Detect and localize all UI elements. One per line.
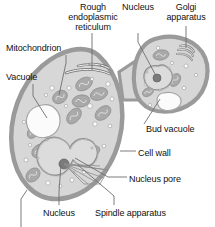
cytoplasmic-vesicle: [148, 103, 151, 106]
vacuole-outline: [26, 105, 60, 138]
cytoplasmic-vesicle: [170, 61, 173, 64]
cytoplasmic-vesicle: [184, 64, 188, 68]
label-nucleus-pore: Nucleus pore: [129, 174, 195, 184]
cytoplasmic-vesicle: [106, 82, 110, 86]
cytoplasmic-vesicle: [70, 178, 74, 182]
nucleus-pore: [37, 157, 39, 159]
cytoplasmic-vesicle: [46, 181, 50, 185]
cytoplasmic-vesicle: [108, 124, 112, 128]
bud-vacuole-shape: [157, 92, 181, 110]
leader-unlabeled-bottom: [21, 190, 27, 227]
bud-nucleolus: [153, 74, 161, 82]
cytoplasmic-vesicle: [93, 122, 97, 126]
nucleus-pore: [159, 89, 161, 91]
label-bud-vacuole: Bud vacuole: [146, 124, 208, 134]
label-nucleus-bud: Nucleus: [118, 2, 158, 12]
label-mitochondrion: Mitochondrion: [6, 43, 76, 53]
cytoplasmic-vesicle: [50, 86, 54, 90]
cytoplasmic-vesicle: [67, 86, 71, 90]
cytoplasmic-vesicle: [22, 120, 25, 123]
nucleus-pore: [91, 147, 93, 149]
label-rough-er: Rough endoplasmic reticulum: [62, 2, 124, 32]
label-vacuole: Vacuole: [6, 72, 48, 82]
cytoplasmic-vesicle: [102, 144, 106, 148]
nucleus-pore: [46, 139, 48, 141]
nucleus-pore: [168, 67, 170, 69]
label-cell-wall: Cell wall: [138, 148, 184, 158]
vacuole-shape: [26, 105, 60, 138]
cytoplasmic-vesicle: [24, 158, 28, 162]
cytoplasmic-vesicle: [64, 104, 67, 107]
cytoplasmic-vesicle: [182, 86, 186, 90]
cytoplasmic-vesicle: [44, 93, 47, 96]
label-golgi-apparatus: Golgi apparatus: [159, 2, 213, 22]
label-spindle-apparatus: Spindle apparatus: [95, 208, 183, 218]
nucleus-pore: [146, 71, 148, 73]
bud-vacuole-outline: [157, 92, 181, 110]
label-nucleus-main: Nucleus: [43, 208, 85, 218]
cytoplasmic-vesicle: [28, 143, 31, 146]
cell-diagram: [0, 0, 215, 227]
cytoplasmic-vesicle: [90, 77, 93, 80]
cytoplasmic-vesicle: [156, 46, 160, 50]
diagram-root: Rough endoplasmic reticulumNucleusGolgi …: [0, 0, 215, 227]
cytoplasmic-vesicle: [58, 184, 62, 188]
cytoplasmic-vesicle: [110, 97, 114, 101]
cytoplasmic-vesicle: [88, 104, 93, 109]
nucleus-pore: [85, 138, 87, 140]
cytoplasmic-vesicle: [194, 73, 197, 76]
bud-nucleus-shape: [144, 65, 173, 91]
